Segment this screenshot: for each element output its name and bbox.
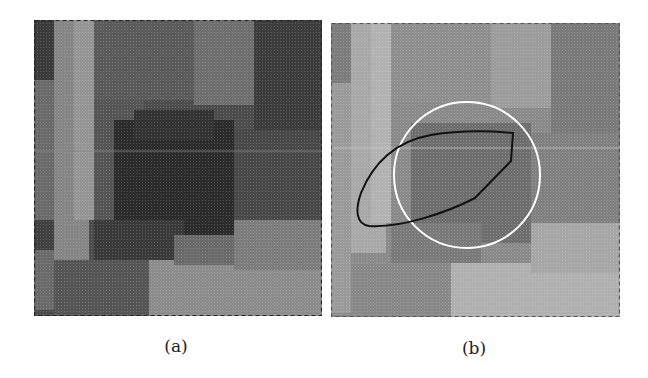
caption-a: (a) <box>146 336 206 356</box>
pixel-patch-a <box>34 20 322 316</box>
panel-b-image <box>331 23 620 317</box>
panel-a-image <box>34 20 322 316</box>
pixel-patch-b <box>331 23 620 317</box>
caption-b: (b) <box>444 338 504 358</box>
